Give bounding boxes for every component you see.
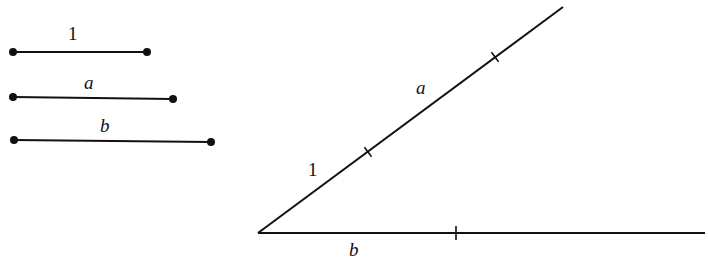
segment-label-1: 1 [68, 24, 78, 43]
segment-a [13, 97, 173, 99]
segment-b [14, 140, 211, 142]
segment-1-end-dot [143, 48, 151, 56]
segment-label-a: a [84, 73, 94, 92]
segment-a-end-dot [169, 95, 177, 103]
segment-b-end-dot [207, 138, 215, 146]
angle-label-b: b [349, 240, 359, 259]
angle-upper-ray [258, 7, 563, 233]
segment-label-b: b [100, 116, 110, 135]
segment-a-start-dot [9, 93, 17, 101]
angle-label-1: 1 [308, 160, 318, 179]
diagram-canvas: 1 a b 1 a b [0, 0, 708, 277]
segment-1-start-dot [9, 48, 17, 56]
angle-label-a: a [416, 78, 426, 97]
diagram-svg [0, 0, 708, 277]
segment-b-start-dot [10, 136, 18, 144]
